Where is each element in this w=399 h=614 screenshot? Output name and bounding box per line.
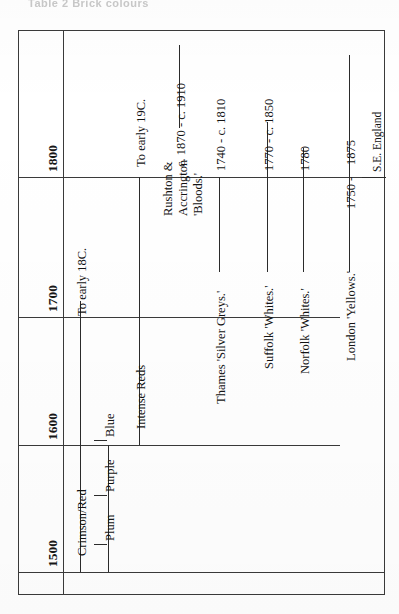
tick-stub-1800 (19, 177, 63, 178)
label-london-range-start: 1750 - (345, 177, 358, 209)
year-tick-label-1500: 1500 (45, 540, 61, 567)
label-intense-reds: Intense Reds (135, 365, 148, 429)
gridline-1600 (64, 445, 340, 446)
connector-plum-left (94, 544, 107, 545)
label-blue: Blue (104, 413, 117, 437)
label-london-range-end: 1875 (345, 140, 358, 165)
year-tick-label-1800: 1800 (45, 145, 61, 172)
label-thames-range: 1740 - c. 1810 (215, 99, 228, 171)
connector-region (362, 177, 386, 178)
plot-area: Crimson/Red To early 18C. Plum Purple Bl… (63, 31, 384, 594)
label-norfolk-whites: Norfolk 'Whites.' (299, 288, 312, 374)
gridline-1800 (64, 177, 384, 178)
label-norfolk-range: 1780 (299, 146, 312, 171)
year-tick-label-1700: 1700 (45, 285, 61, 312)
connector-plum-purple (94, 495, 107, 496)
label-suffolk-whites: Suffolk 'Whites.' (263, 286, 276, 369)
year-tick-label-1600: 1600 (45, 413, 61, 440)
label-intense-reds-range: To early 19C. (135, 99, 148, 167)
scan-header-ghost-text: Table 2 Brick colours (28, 0, 149, 9)
tick-stub-1500 (19, 572, 63, 573)
chart-frame: 1800 1700 1600 1500 Crimson/Red To early… (18, 30, 385, 595)
label-london-yellows: London 'Yellows.' (345, 271, 358, 361)
label-rushton-line-3: 'Bloods.' (191, 160, 206, 216)
bar-thames-silver-greys (219, 177, 220, 272)
label-plum: Plum (104, 515, 117, 541)
gridline-1500 (64, 572, 384, 573)
label-region: S.E. England (371, 112, 383, 172)
label-crimson-red: Crimson/Red (76, 489, 89, 556)
label-suffolk-range: 1770 - c. 1850 (263, 99, 276, 171)
label-rushton-accrington-bloods: Rushton & Accrington 'Bloods.' (161, 160, 205, 216)
tick-stub-1600 (19, 445, 63, 446)
label-purple: Purple (104, 459, 117, 492)
label-rushton-line-2: Accrington (176, 160, 191, 216)
scan-header-strip: Table 2 Brick colours (0, 0, 399, 22)
label-crimson-red-range: To early 18C. (76, 248, 89, 316)
label-rushton-range: c. 1870 - c. 1910 (175, 83, 188, 167)
label-rushton-line-1: Rushton & (161, 160, 176, 216)
tick-stub-1700 (19, 317, 63, 318)
label-thames-silver-greys: Thames 'Silver Greys.' (215, 291, 228, 404)
connector-purple-blue (94, 440, 107, 441)
